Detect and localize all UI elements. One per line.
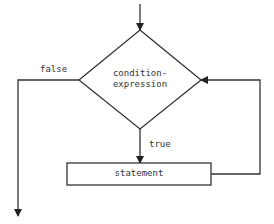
false-exit-arrow [18,80,79,216]
true-label: true [149,139,171,150]
condition-label-line1: condition- [94,68,186,79]
flowchart-graphics [0,0,274,224]
condition-label-line2: expression [94,79,186,90]
statement-label: statement [67,168,211,179]
flowchart-canvas: condition- expression false true stateme… [0,0,274,224]
condition-label: condition- expression [94,68,186,90]
false-label: false [40,64,67,75]
loop-back-arrow [201,80,260,174]
